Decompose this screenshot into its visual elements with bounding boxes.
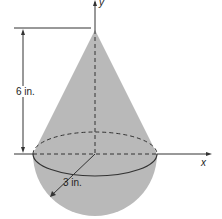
x-axis-label: x bbox=[201, 157, 206, 168]
height-label: 6 in. bbox=[16, 86, 35, 97]
radius-label: 3 in. bbox=[63, 177, 82, 188]
y-axis-label: y bbox=[99, 0, 104, 8]
diagram-svg bbox=[0, 0, 222, 219]
x-arrow-icon bbox=[206, 152, 212, 156]
height-arrow-up-icon bbox=[21, 29, 25, 35]
cone-hemisphere-diagram: y x 6 in. 3 in. bbox=[0, 0, 222, 219]
height-arrow-down-icon bbox=[21, 147, 25, 153]
y-arrow-icon bbox=[93, 0, 97, 6]
